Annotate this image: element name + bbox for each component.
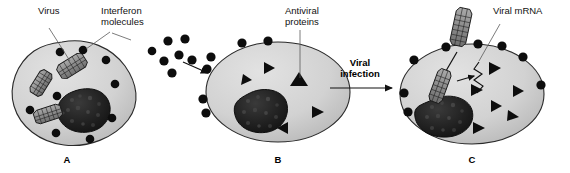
interferon-diagram: Virus Interferon molecules A [0, 0, 570, 173]
figure-canvas: Virus Interferon molecules A [0, 0, 570, 173]
free-interferon-cluster [148, 34, 197, 77]
label-viral-infection-line1: Viral [350, 57, 370, 68]
panel-letter-b: B [275, 154, 282, 165]
panel-c: Viral mRNA C [399, 5, 545, 165]
cell-a-nucleus [58, 89, 111, 133]
label-interferon-line1: Interferon [101, 5, 142, 16]
label-antiviral-line2: proteins [285, 16, 319, 27]
label-viral-infection-line2: infection [340, 68, 380, 79]
panel-letter-c: C [469, 154, 476, 165]
label-virus: Virus [38, 5, 60, 16]
label-antiviral-line1: Antiviral [285, 5, 319, 16]
panel-a: Virus Interferon molecules A [12, 5, 144, 165]
virus-particle-c-external [449, 7, 473, 47]
panel-letter-a: A [64, 154, 71, 165]
label-interferon-line2: molecules [101, 16, 144, 27]
label-viral-mrna: Viral mRNA [493, 5, 543, 16]
interferon-leader-outer [112, 33, 131, 40]
panel-b: Antiviral proteins B [198, 5, 350, 165]
